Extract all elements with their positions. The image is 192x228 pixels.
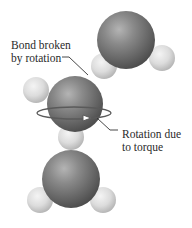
bottom-water-molecule [27, 150, 116, 213]
bond-broken-label-line2: by rotation [11, 52, 71, 65]
oxygen-atom [42, 150, 100, 208]
rotation-due-label-line1: Rotation due [122, 128, 181, 141]
top-water-molecule [91, 11, 175, 79]
rotation-due-label: Rotation due to torque [122, 128, 181, 154]
middle-water-molecule [23, 76, 103, 150]
rotation-due-label-line2: to torque [122, 141, 181, 154]
water-molecule-rotation-diagram: Bond broken by rotation Rotation due to … [0, 0, 192, 228]
rotation-leader-line [97, 118, 118, 130]
hydrogen-atom [23, 77, 49, 103]
bond-broken-label: Bond broken by rotation [11, 39, 71, 65]
bond-broken-label-line1: Bond broken [11, 39, 71, 52]
diagram-canvas [0, 0, 192, 228]
oxygen-atom [97, 11, 155, 69]
oxygen-atom [47, 76, 103, 132]
